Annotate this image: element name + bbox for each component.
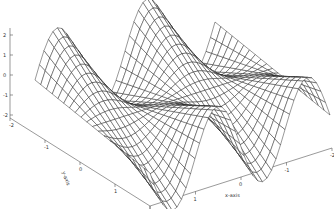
z-tick-label: 0 [3,72,6,78]
surface-mesh [35,0,330,209]
y-tick-label: -1 [44,144,49,150]
y-tick-label: 0 [79,166,82,172]
x-tick-label: 1 [194,196,197,202]
z-tick-label: 1 [3,52,6,58]
x-axis-label: x-axis [225,192,240,198]
z-tick-label: -1 [3,92,8,98]
z-tick-label: 2 [3,32,6,38]
z-tick-label: -2 [3,112,8,118]
x-tick-label: -1 [285,167,290,173]
surface-plot-canvas: -2-1012y-axis210-1-2x-axis210-1-2 [0,0,334,209]
y-tick-label: -2 [9,122,14,128]
x-tick-label: 0 [239,181,242,187]
x-tick-label: -2 [330,152,334,158]
surface-plot: -2-1012y-axis210-1-2x-axis210-1-2 x-axis… [0,0,334,209]
y-axis-label: y-axis [60,170,72,187]
y-tick-label: 1 [114,188,117,194]
